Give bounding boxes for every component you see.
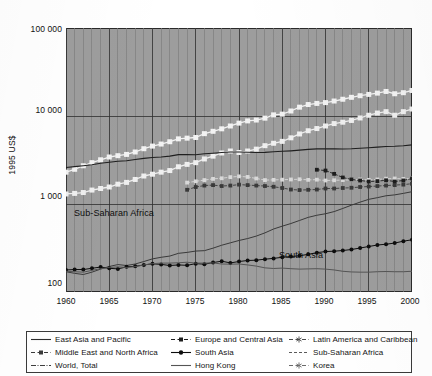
legend-label: East Asia and Pacific	[55, 336, 131, 344]
legend-key-icon	[288, 348, 310, 357]
legend-item-latin-america-and-caribbean[interactable]: Latin America and Caribbean	[288, 335, 416, 344]
legend-key-icon	[288, 361, 310, 370]
y-tick-label: 100 000	[31, 24, 62, 34]
legend-label: World, Total	[55, 362, 98, 370]
y-axis-title: 1995 US$	[7, 95, 17, 215]
legend-item-middle-east-and-north-africa[interactable]: Middle East and North Africa	[30, 348, 170, 357]
legend-key-icon	[30, 361, 52, 370]
x-tick-label: 1975	[175, 296, 215, 306]
legend-item-sub-saharan-africa[interactable]: Sub-Saharan Africa	[288, 348, 416, 357]
legend-label: Middle East and North Africa	[55, 349, 158, 357]
legend-key-icon	[170, 348, 192, 357]
legend: East Asia and Pacific Europe and Central…	[26, 331, 412, 373]
annotation-sub-saharan-africa: Sub-Saharan Africa	[74, 208, 154, 218]
legend-label: Latin America and Caribbean	[313, 336, 418, 344]
legend-item-korea[interactable]: Korea	[288, 361, 416, 370]
legend-label: South Asia	[195, 349, 234, 357]
legend-item-hong-kong[interactable]: Hong Kong	[170, 361, 288, 370]
legend-key-icon	[30, 335, 52, 344]
legend-label: Europe and Central Asia	[195, 336, 283, 344]
legend-key-icon	[170, 335, 192, 344]
data-series-layer	[66, 28, 412, 292]
x-tick-label: 1970	[132, 296, 172, 306]
legend-grid: East Asia and Pacific Europe and Central…	[27, 332, 411, 372]
legend-item-world-total[interactable]: World, Total	[30, 361, 170, 370]
legend-label: Sub-Saharan Africa	[313, 349, 383, 357]
y-tick-label: 1 000	[40, 191, 62, 201]
legend-item-east-asia-and-pacific[interactable]: East Asia and Pacific	[30, 335, 170, 344]
legend-key-icon	[30, 348, 52, 357]
annotation-south-asia: South Asia	[279, 250, 323, 260]
x-tick-label: 2000	[390, 296, 430, 306]
legend-key-icon	[288, 335, 310, 344]
y-tick-label: 10 000	[35, 105, 62, 115]
legend-item-europe-and-central-asia[interactable]: Europe and Central Asia	[170, 335, 288, 344]
y-tick-label: 100	[48, 278, 62, 288]
legend-key-icon	[170, 361, 192, 370]
x-tick-label: 1985	[261, 296, 301, 306]
x-tick-label: 1995	[347, 296, 387, 306]
x-tick-label: 1990	[304, 296, 344, 306]
chart-figure: 100 000 10 000 1 000 100 1995 US$ Sub-Sa…	[0, 0, 432, 376]
x-tick-label: 1980	[218, 296, 258, 306]
legend-item-south-asia[interactable]: South Asia	[170, 348, 288, 357]
legend-label: Korea	[313, 362, 335, 370]
x-tick-label: 1960	[46, 296, 86, 306]
plot-area: Sub-Saharan Africa South Asia	[66, 28, 412, 292]
legend-label: Hong Kong	[195, 362, 235, 370]
x-tick-label: 1965	[89, 296, 129, 306]
